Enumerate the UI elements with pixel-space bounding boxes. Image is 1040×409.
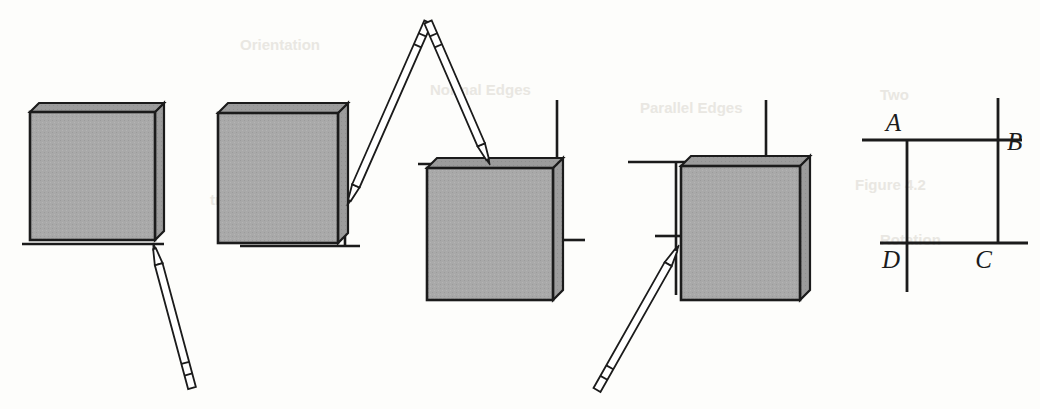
block-front-face-panel-3 (427, 168, 553, 300)
block-front-face-panel-1 (30, 112, 155, 240)
vertex-label-b: B (1007, 128, 1022, 155)
vertex-label-c: C (975, 246, 992, 273)
block-top-face-panel-1 (30, 103, 164, 112)
figure-container: Parallel EdgesNormal EdgesTwoFigure 4.2R… (0, 0, 1040, 409)
bleed-line-1: Parallel Edges (640, 99, 743, 116)
block-front-face-panel-2 (218, 113, 338, 243)
rotation-sequence-diagram: Parallel EdgesNormal EdgesTwoFigure 4.2R… (0, 0, 1040, 409)
bleed-line-2: Normal Edges (430, 81, 531, 98)
vertex-label-a: A (884, 109, 902, 136)
block-right-face-panel-3 (553, 158, 563, 300)
block-top-face-panel-4 (681, 156, 810, 166)
block-top-face-panel-2 (218, 103, 348, 113)
block-right-face-panel-1 (155, 103, 164, 240)
block-top-face-panel-3 (427, 158, 563, 168)
vertex-label-d: D (881, 246, 900, 273)
block-right-face-panel-2 (338, 103, 348, 243)
block-front-face-panel-4 (681, 166, 800, 300)
bleed-line-3: Two (880, 86, 909, 103)
block-right-face-panel-4 (800, 156, 810, 300)
bleed-line-4: Figure 4.2 (855, 176, 926, 193)
bleed-line-6: Orientation (240, 36, 320, 53)
